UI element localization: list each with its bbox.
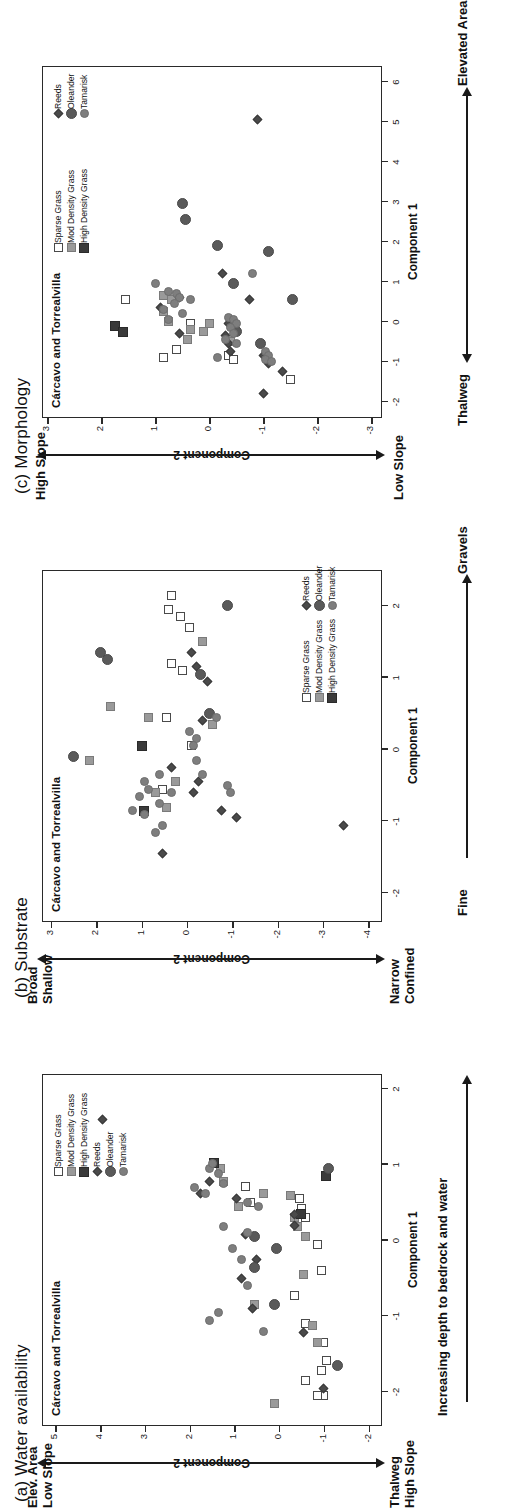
data-point-tamarisk <box>167 788 176 797</box>
x-tick-label: 0 <box>390 314 401 330</box>
data-point-high-density-grass <box>327 693 337 703</box>
legend-item-label: Sparse Grass <box>52 190 64 243</box>
y-tick-label: -2 <box>310 426 321 448</box>
y-tick-mark <box>371 418 372 424</box>
legend-item-label: Sparse Grass <box>52 1114 64 1167</box>
data-point-tamarisk <box>135 792 144 801</box>
data-point-mod-density-grass <box>67 1168 76 1177</box>
data-point-high-density-grass <box>79 243 89 253</box>
data-point-mod-density-grass <box>301 1232 310 1241</box>
panel-c-bottom-end-label: Low Slope <box>392 418 407 500</box>
y-tick-mark <box>232 922 233 928</box>
y-tick-label: -2 <box>362 1434 373 1456</box>
direction-arrow-head <box>462 354 472 363</box>
data-point-oleander <box>105 1167 116 1178</box>
figure-rotation-wrapper: (a) Water availability Cárcavo and Torre… <box>0 0 519 1512</box>
x-tick-mark <box>382 241 388 242</box>
direction-arrow-line <box>466 1084 468 1402</box>
y-tick-mark <box>278 922 279 928</box>
x-axis-label: Component 1 <box>406 1211 420 1288</box>
data-point-oleander <box>323 1163 334 1174</box>
data-point-high-density-grass <box>118 327 128 337</box>
data-point-sparse-grass <box>178 666 187 675</box>
y-tick-mark <box>187 922 188 928</box>
data-point-tamarisk <box>237 1255 246 1264</box>
data-point-sparse-grass <box>54 244 63 253</box>
data-point-mod-density-grass <box>67 244 76 253</box>
data-point-sparse-grass <box>290 1291 299 1300</box>
panel-a-top-end-label: Elev. AreaLow Slope <box>26 1428 55 1508</box>
data-point-sparse-grass <box>322 1356 331 1365</box>
data-point-sparse-grass <box>229 356 238 365</box>
x-tick-label: 2 <box>390 234 401 250</box>
data-point-oleander <box>66 109 77 120</box>
panel-water-availability: (a) Water availability Cárcavo and Torre… <box>0 1008 519 1512</box>
data-point-mod-density-grass <box>270 1399 279 1408</box>
data-point-sparse-grass <box>313 1391 322 1400</box>
y-tick-label: -4 <box>361 930 372 952</box>
y-tick-mark <box>323 922 324 928</box>
y-tick-label: 1 <box>135 930 146 952</box>
panel-b-x-left-label: Fine <box>456 889 471 916</box>
data-point-tamarisk <box>151 828 160 837</box>
y-tick-label: 2 <box>89 930 100 952</box>
data-point-sparse-grass <box>295 1194 304 1203</box>
confinement-arrow-head-down <box>376 954 385 964</box>
data-point-mod-density-grass <box>259 1189 268 1198</box>
x-tick-mark <box>382 1315 388 1316</box>
x-tick-label: -1 <box>390 354 401 370</box>
x-tick-label: 0 <box>390 742 401 758</box>
legend-item-label: Mod Density Grass <box>313 620 325 693</box>
x-tick-label: -1 <box>390 813 401 829</box>
data-point-high-density-grass <box>79 1167 89 1177</box>
data-point-tamarisk <box>201 1189 210 1198</box>
data-point-tamarisk <box>144 785 153 794</box>
x-tick-label: 6 <box>390 74 401 90</box>
y-tick-label: 3 <box>138 1434 149 1456</box>
data-point-tamarisk <box>205 1316 214 1325</box>
data-point-sparse-grass <box>185 623 194 632</box>
data-point-oleander <box>249 1262 260 1273</box>
panel-c-title: (c) Morphology <box>12 378 32 494</box>
y-tick-mark <box>142 922 143 928</box>
x-tick-label: 1 <box>390 274 401 290</box>
x-tick-mark <box>382 605 388 606</box>
legend-item-label: Reeds <box>300 576 312 601</box>
y-tick-label: 0 <box>180 930 191 952</box>
data-point-oleander <box>180 215 191 226</box>
slope-direction-arrow-line <box>46 1462 376 1464</box>
data-point-mod-density-grass <box>144 713 153 722</box>
confinement-direction-arrow-line <box>46 958 376 960</box>
x-tick-mark <box>382 201 388 202</box>
data-point-sparse-grass <box>241 1182 250 1191</box>
y-tick-mark <box>368 922 369 928</box>
y-tick-mark <box>279 1426 280 1432</box>
y-tick-mark <box>324 1426 325 1432</box>
panel-a-bottom-end-label: ThalwegHigh Slope <box>388 1428 417 1508</box>
y-tick-mark <box>263 418 264 424</box>
legend-item-label: Sparse Grass <box>300 640 312 693</box>
legend-item-label: High Density Grass <box>78 1093 90 1167</box>
panel-c-inner-title: Cárcavo and Torrealvilla <box>50 273 62 408</box>
x-tick-label: 3 <box>390 194 401 210</box>
data-point-high-density-grass <box>137 741 147 751</box>
x-tick-mark <box>382 820 388 821</box>
data-point-mod-density-grass <box>299 1270 308 1279</box>
y-tick-mark <box>190 1426 191 1432</box>
data-point-mod-density-grass <box>106 702 115 711</box>
slope-arrow-head-down <box>376 450 385 460</box>
x-tick-mark <box>382 401 388 402</box>
y-tick-label: 0 <box>202 426 213 448</box>
data-point-mod-density-grass <box>199 328 208 337</box>
figure-canvas: (a) Water availability Cárcavo and Torre… <box>0 0 519 1512</box>
legend-item-label: Tamarisk <box>78 75 90 109</box>
x-tick-mark <box>382 321 388 322</box>
legend-item-label: Tamarisk <box>117 1133 129 1167</box>
data-point-mod-density-grass <box>315 694 324 703</box>
legend-item-label: Mod Density Grass <box>65 1094 77 1167</box>
panel-a-x-direction-label: Increasing depth to bedrock and water <box>436 1178 451 1416</box>
y-tick-mark <box>96 922 97 928</box>
data-point-tamarisk <box>228 1244 237 1253</box>
x-tick-mark <box>382 1163 388 1164</box>
legend-item-label: Oleander <box>104 1132 116 1167</box>
